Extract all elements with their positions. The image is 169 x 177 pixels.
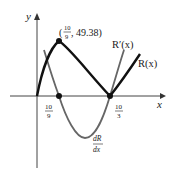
tick-10-3-num: 10	[115, 103, 123, 111]
peak-paren: (	[59, 27, 63, 39]
peak-den: 9	[65, 33, 68, 40]
chart: y x ( 10 9 , 49.38) R′(x) R(x) 10 9 10 3…	[0, 0, 169, 177]
zero-point-2	[107, 93, 113, 99]
y-axis-arrow	[34, 13, 40, 20]
zero-point-1	[56, 93, 62, 99]
dR-den: dx	[93, 145, 101, 154]
peak-num: 10	[64, 24, 71, 31]
r-label: R(x)	[138, 58, 158, 70]
dR-num: dR	[93, 134, 102, 143]
tick-10-9-num: 10	[45, 103, 53, 111]
x-axis-label: x	[156, 98, 162, 110]
peak-point	[56, 38, 62, 44]
peak-rest: , 49.38)	[71, 27, 102, 39]
rprime-label: R′(x)	[112, 39, 134, 51]
tick-10-3-den: 3	[117, 112, 121, 120]
y-axis-label: y	[25, 10, 31, 22]
tick-10-9-den: 9	[47, 112, 51, 120]
